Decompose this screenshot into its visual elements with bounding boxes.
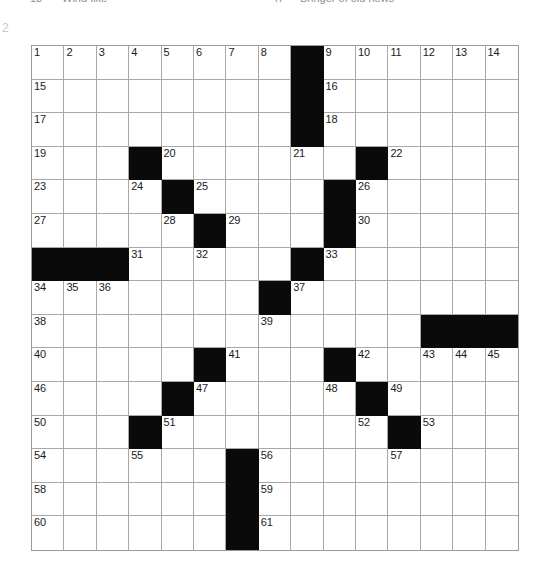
grid-cell[interactable] [194, 483, 226, 517]
grid-cell[interactable] [64, 214, 96, 248]
grid-cell[interactable] [388, 113, 420, 147]
grid-cell[interactable]: 50 [32, 416, 64, 450]
grid-cell[interactable] [324, 416, 356, 450]
grid-cell[interactable] [259, 214, 291, 248]
grid-cell[interactable]: 48 [324, 382, 356, 416]
grid-cell[interactable] [291, 180, 323, 214]
grid-cell[interactable] [324, 281, 356, 315]
grid-cell[interactable]: 2 [64, 46, 96, 80]
grid-cell[interactable]: 38 [32, 315, 64, 349]
grid-cell[interactable] [97, 113, 129, 147]
grid-cell[interactable] [97, 147, 129, 181]
grid-cell[interactable] [97, 382, 129, 416]
grid-cell[interactable] [421, 80, 453, 114]
grid-cell[interactable]: 57 [388, 449, 420, 483]
grid-cell[interactable]: 10 [356, 46, 388, 80]
grid-cell[interactable] [453, 180, 485, 214]
grid-cell[interactable] [64, 147, 96, 181]
grid-cell[interactable] [64, 416, 96, 450]
grid-cell[interactable] [291, 416, 323, 450]
crossword-grid[interactable]: 1234567891011121314151617181920212223242… [31, 45, 519, 551]
grid-cell[interactable] [129, 315, 161, 349]
grid-cell[interactable] [453, 281, 485, 315]
grid-cell[interactable] [486, 483, 518, 517]
grid-cell[interactable] [421, 214, 453, 248]
grid-cell[interactable] [421, 382, 453, 416]
grid-cell[interactable] [356, 113, 388, 147]
grid-cell[interactable] [421, 248, 453, 282]
grid-cell[interactable] [388, 248, 420, 282]
grid-cell[interactable] [162, 113, 194, 147]
grid-cell[interactable] [324, 147, 356, 181]
grid-cell[interactable]: 44 [453, 348, 485, 382]
grid-cell[interactable] [388, 180, 420, 214]
grid-cell[interactable] [226, 180, 258, 214]
grid-cell[interactable]: 25 [194, 180, 226, 214]
grid-cell[interactable]: 23 [32, 180, 64, 214]
grid-cell[interactable]: 1 [32, 46, 64, 80]
grid-cell[interactable] [64, 80, 96, 114]
grid-cell[interactable] [291, 483, 323, 517]
grid-cell[interactable] [486, 449, 518, 483]
grid-cell[interactable]: 53 [421, 416, 453, 450]
grid-cell[interactable] [356, 449, 388, 483]
grid-cell[interactable] [356, 248, 388, 282]
grid-cell[interactable]: 28 [162, 214, 194, 248]
grid-cell[interactable] [226, 248, 258, 282]
grid-cell[interactable] [291, 516, 323, 550]
grid-cell[interactable]: 6 [194, 46, 226, 80]
grid-cell[interactable] [356, 483, 388, 517]
grid-cell[interactable] [453, 416, 485, 450]
grid-cell[interactable] [324, 483, 356, 517]
grid-cell[interactable] [162, 248, 194, 282]
grid-cell[interactable]: 61 [259, 516, 291, 550]
grid-cell[interactable] [129, 214, 161, 248]
grid-cell[interactable] [162, 516, 194, 550]
grid-cell[interactable] [356, 315, 388, 349]
grid-cell[interactable] [64, 449, 96, 483]
grid-cell[interactable] [421, 516, 453, 550]
grid-cell[interactable] [421, 147, 453, 181]
grid-cell[interactable] [291, 382, 323, 416]
grid-cell[interactable]: 29 [226, 214, 258, 248]
grid-cell[interactable] [194, 80, 226, 114]
grid-cell[interactable] [129, 483, 161, 517]
grid-cell[interactable]: 33 [324, 248, 356, 282]
grid-cell[interactable]: 13 [453, 46, 485, 80]
grid-cell[interactable] [486, 516, 518, 550]
grid-cell[interactable] [486, 281, 518, 315]
grid-cell[interactable] [162, 80, 194, 114]
grid-cell[interactable] [486, 248, 518, 282]
grid-cell[interactable]: 52 [356, 416, 388, 450]
grid-cell[interactable] [388, 214, 420, 248]
grid-cell[interactable]: 7 [226, 46, 258, 80]
grid-cell[interactable]: 17 [32, 113, 64, 147]
grid-cell[interactable]: 54 [32, 449, 64, 483]
grid-cell[interactable] [259, 147, 291, 181]
grid-cell[interactable] [226, 315, 258, 349]
grid-cell[interactable] [162, 315, 194, 349]
grid-cell[interactable] [64, 315, 96, 349]
grid-cell[interactable] [194, 416, 226, 450]
grid-cell[interactable] [64, 483, 96, 517]
grid-cell[interactable] [486, 180, 518, 214]
grid-cell[interactable] [259, 113, 291, 147]
grid-cell[interactable] [97, 348, 129, 382]
grid-cell[interactable]: 26 [356, 180, 388, 214]
grid-cell[interactable]: 24 [129, 180, 161, 214]
grid-cell[interactable] [97, 180, 129, 214]
grid-cell[interactable] [97, 416, 129, 450]
grid-cell[interactable] [324, 449, 356, 483]
grid-cell[interactable]: 27 [32, 214, 64, 248]
grid-cell[interactable]: 34 [32, 281, 64, 315]
grid-cell[interactable] [194, 315, 226, 349]
grid-cell[interactable] [64, 180, 96, 214]
grid-cell[interactable]: 47 [194, 382, 226, 416]
grid-cell[interactable]: 60 [32, 516, 64, 550]
grid-cell[interactable]: 46 [32, 382, 64, 416]
grid-cell[interactable] [162, 449, 194, 483]
grid-cell[interactable] [356, 281, 388, 315]
grid-cell[interactable] [453, 248, 485, 282]
grid-cell[interactable] [194, 147, 226, 181]
grid-cell[interactable] [162, 281, 194, 315]
